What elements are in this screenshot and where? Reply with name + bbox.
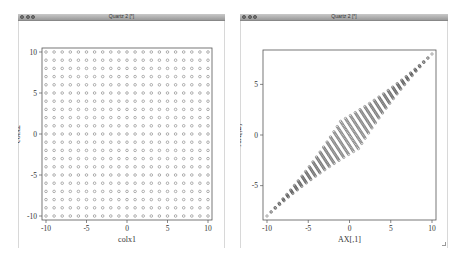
y-tick-label: 0	[33, 130, 37, 139]
x-tick-label: 0	[348, 224, 352, 233]
x-axis-label: AX[,1]	[338, 235, 361, 244]
left-plot-window: Quartz 2 [*] -10-50510-10-50510colx1colx…	[18, 14, 225, 248]
x-tick-label: -10	[41, 224, 51, 233]
x-tick-label: 5	[389, 224, 393, 233]
y-tick-label: 5	[33, 89, 37, 98]
x-tick-label: -5	[83, 224, 89, 233]
right-plot-window: Quartz 2 [*] -10-50510-505AX[,1]AX[,2]	[240, 14, 448, 248]
plot-frame	[42, 48, 212, 220]
x-tick-label: -5	[305, 224, 311, 233]
y-tick-label: 5	[254, 80, 258, 89]
data-points	[266, 53, 433, 217]
x-tick-label: 5	[166, 224, 170, 233]
y-tick-label: -10	[27, 212, 37, 221]
x-axis-label: colx1	[118, 235, 136, 244]
x-tick-label: 10	[204, 224, 212, 233]
plot-frame	[263, 50, 436, 220]
y-tick-label: 10	[30, 48, 38, 57]
x-tick-label: -10	[262, 224, 272, 233]
data-points	[45, 51, 210, 218]
grid-scatter-plot: -10-50510-10-50510colx1colx2	[18, 14, 225, 248]
y-tick-label: -5	[31, 171, 37, 180]
resize-handle-icon[interactable]	[442, 242, 446, 246]
x-tick-label: 0	[125, 224, 129, 233]
y-tick-label: 0	[254, 131, 258, 140]
y-axis-label: AX[,2]	[240, 123, 243, 146]
y-axis-label: colx2	[18, 125, 22, 143]
x-tick-label: 10	[428, 224, 436, 233]
transformed-scatter-plot: -10-50510-505AX[,1]AX[,2]	[240, 14, 448, 248]
y-tick-label: -5	[252, 181, 258, 190]
